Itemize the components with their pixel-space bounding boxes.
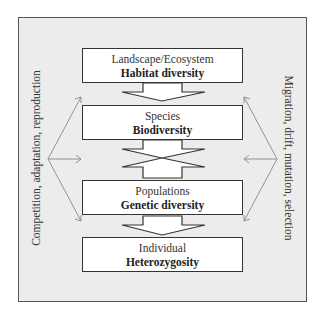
diversity-type: Biodiversity (83, 123, 242, 137)
right-side-arrows-icon (244, 97, 277, 221)
level-name: Individual (83, 241, 242, 255)
level-box-species: Species Biodiversity (82, 105, 243, 140)
level-name: Landscape/Ecosystem (83, 52, 242, 66)
left-process-label: Competition, adaptation, reproduction (30, 70, 42, 246)
bidirectional-arrow-icon (122, 140, 205, 178)
hierarchy-diagram: Landscape/Ecosystem Habitat diversity Sp… (0, 0, 323, 318)
diversity-type: Genetic diversity (83, 198, 242, 212)
diversity-type: Habitat diversity (83, 66, 242, 80)
level-box-landscape: Landscape/Ecosystem Habitat diversity (82, 48, 243, 83)
level-box-individual: Individual Heterozygosity (82, 237, 243, 272)
level-name: Populations (83, 184, 242, 198)
level-box-populations: Populations Genetic diversity (82, 180, 243, 215)
left-side-arrows-icon (48, 97, 81, 221)
right-process-label: Migration, drift, mutation, selection (283, 76, 295, 241)
down-arrow-icon (122, 216, 205, 235)
level-name: Species (83, 109, 242, 123)
diversity-type: Heterozygosity (83, 255, 242, 269)
down-arrow-icon (122, 83, 205, 101)
